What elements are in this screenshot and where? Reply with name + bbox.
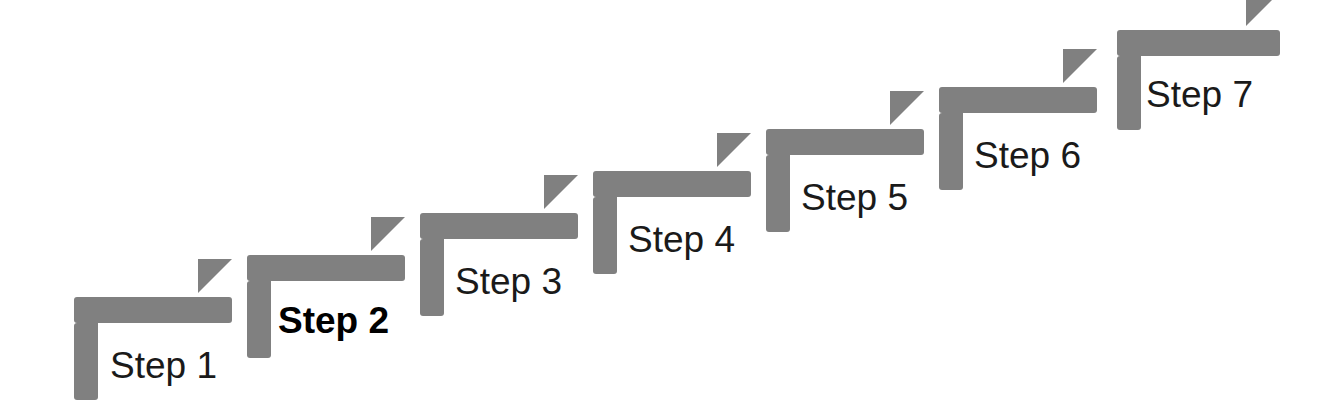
staircase-diagram: Step 1Step 2Step 3Step 4Step 5Step 6Step… bbox=[0, 0, 1343, 418]
step-7-label: Step 7 bbox=[1146, 76, 1253, 113]
step-1-label: Step 1 bbox=[110, 347, 217, 384]
step-6-horizontal-bar bbox=[939, 87, 1097, 113]
step-2-label: Step 2 bbox=[278, 302, 389, 339]
step-4-horizontal-bar bbox=[593, 171, 751, 197]
step-4-label: Step 4 bbox=[628, 221, 735, 258]
step-7-horizontal-bar bbox=[1117, 30, 1280, 56]
step-6-vertical-leg bbox=[939, 113, 963, 190]
step-3-vertical-leg bbox=[420, 239, 444, 316]
step-1-horizontal-bar bbox=[74, 297, 232, 323]
step-5-vertical-leg bbox=[766, 155, 790, 232]
step-7-vertical-leg bbox=[1117, 56, 1141, 130]
step-3-horizontal-bar bbox=[420, 213, 578, 239]
step-6-label: Step 6 bbox=[974, 137, 1081, 174]
step-5-horizontal-bar bbox=[766, 129, 924, 155]
step-2-vertical-leg bbox=[247, 281, 271, 358]
step-2-horizontal-bar bbox=[247, 255, 405, 281]
step-1-vertical-leg bbox=[74, 323, 98, 400]
step-3-label: Step 3 bbox=[455, 263, 562, 300]
step-5-label: Step 5 bbox=[801, 179, 908, 216]
step-4-vertical-leg bbox=[593, 197, 617, 274]
